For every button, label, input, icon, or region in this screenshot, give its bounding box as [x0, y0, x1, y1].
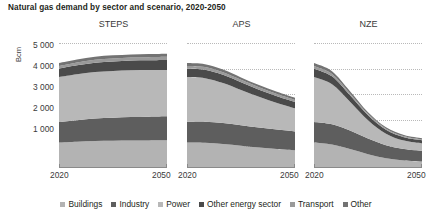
- area-stack-steps: [59, 40, 167, 168]
- legend-label: Buildings: [68, 199, 102, 209]
- x-tick-aps-2050: 2050: [280, 170, 299, 180]
- legend-label: Other energy sector: [207, 199, 281, 209]
- x-tick-mark-right-nze: [421, 164, 422, 168]
- area-stack-aps: [187, 40, 295, 168]
- legend-item-power[interactable]: Power: [158, 199, 190, 209]
- legend-item-buildings[interactable]: Buildings: [60, 199, 102, 209]
- plot-area-aps: [187, 40, 295, 168]
- area-band-buildings: [59, 140, 167, 168]
- legend-item-other[interactable]: Other: [343, 199, 372, 209]
- y-tick-1000: 1 000: [20, 124, 54, 134]
- x-tick-mark-left-steps: [59, 164, 60, 168]
- legend-item-industry[interactable]: Industry: [111, 199, 149, 209]
- x-tick-nze-2020: 2020: [305, 170, 324, 180]
- y-tick-2000: 2 000: [20, 103, 54, 113]
- x-axis-line-steps: [59, 167, 167, 168]
- legend-label: Power: [166, 199, 190, 209]
- legend-swatch-icon: [111, 202, 116, 207]
- panel-title-row: STEPS APS NZE: [0, 19, 432, 32]
- y-tick-4000: 4 000: [20, 61, 54, 71]
- x-tick-steps-2020: 2020: [50, 170, 69, 180]
- x-tick-mark-left-nze: [314, 164, 315, 168]
- x-tick-steps-2050: 2050: [152, 170, 171, 180]
- legend-swatch-icon: [60, 202, 65, 207]
- chart-legend: Buildings Industry Power Other energy se…: [0, 197, 432, 211]
- x-tick-aps-2020: 2020: [178, 170, 197, 180]
- y-axis-ticks: 5 000 4 000 3 000 2 000 1 000: [18, 0, 54, 219]
- x-axis-line-nze: [314, 167, 422, 168]
- area-band-power: [59, 70, 167, 122]
- legend-label: Other: [351, 199, 372, 209]
- panel-title-steps: STEPS: [55, 19, 172, 29]
- legend-label: Transport: [298, 199, 334, 209]
- panel-title-nze: NZE: [310, 19, 427, 29]
- legend-swatch-icon: [158, 202, 163, 207]
- chart-figure: Natural gas demand by sector and scenari…: [0, 0, 432, 219]
- x-tick-mark-right-steps: [166, 164, 167, 168]
- plot-area-steps: [59, 40, 167, 168]
- panel-title-aps: APS: [183, 19, 300, 29]
- legend-swatch-icon: [290, 202, 295, 207]
- legend-swatch-icon: [343, 202, 348, 207]
- legend-swatch-icon: [199, 202, 204, 207]
- legend-item-transport[interactable]: Transport: [290, 199, 334, 209]
- x-axis-line-aps: [187, 167, 295, 168]
- plot-area-nze: [314, 40, 422, 168]
- area-stack-nze: [314, 40, 422, 168]
- legend-label: Industry: [119, 199, 149, 209]
- x-tick-mark-right-aps: [294, 164, 295, 168]
- legend-item-other-energy-sector[interactable]: Other energy sector: [199, 199, 281, 209]
- x-tick-mark-left-aps: [187, 164, 188, 168]
- x-tick-nze-2050: 2050: [407, 170, 426, 180]
- y-tick-3000: 3 000: [20, 82, 54, 92]
- y-tick-5000: 5 000: [20, 40, 54, 50]
